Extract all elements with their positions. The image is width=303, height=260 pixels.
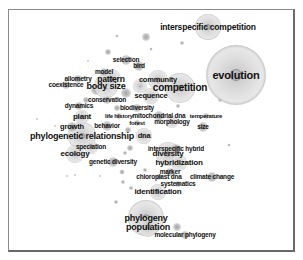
minor-bubble (176, 104, 180, 108)
keyword-label: ecology (61, 150, 90, 158)
minor-bubble (120, 170, 125, 175)
minor-bubble (54, 125, 56, 127)
keyword-label: evolution (212, 70, 259, 81)
minor-bubble (127, 145, 133, 151)
keyword-label: diversity (152, 150, 183, 158)
keyword-label: temperature (190, 113, 222, 119)
minor-bubble (121, 180, 125, 184)
minor-bubble (143, 168, 147, 172)
keyword-label: bird (133, 63, 144, 70)
minor-bubble (123, 151, 127, 155)
keyword-label: interspecific competition (160, 23, 256, 32)
keyword-label: morphology (154, 119, 190, 126)
keyword-label: conservation (88, 97, 126, 104)
minor-bubble (74, 174, 76, 176)
minor-bubble (105, 49, 111, 55)
keyword-label: biodiversity (120, 105, 154, 112)
minor-bubble (36, 118, 38, 120)
minor-bubble (116, 35, 119, 38)
minor-bubble (87, 60, 89, 62)
minor-bubble (150, 48, 153, 51)
keyword-label: identification (135, 188, 182, 196)
minor-bubble (129, 186, 133, 190)
keyword-label: sequence (135, 92, 168, 100)
keyword-label: genetic diversity (89, 159, 137, 166)
minor-bubble (180, 41, 184, 45)
keyword-label: molecular phylogeny (154, 232, 215, 239)
keyword-label: dynamics (65, 103, 93, 110)
keyword-label: behavior (94, 123, 120, 130)
keyword-label: plant (73, 113, 91, 121)
keyword-label: forest (129, 120, 144, 126)
minor-bubble (228, 144, 231, 147)
keyword-label: coexistence (48, 82, 83, 89)
keyword-label: hybridization (155, 159, 202, 167)
keyword-label: life history (105, 113, 133, 119)
keyword-label: dna (138, 132, 151, 140)
minor-bubble (114, 200, 118, 204)
keyword-label: community (139, 76, 177, 84)
minor-bubble (99, 175, 101, 177)
minor-bubble (66, 175, 68, 177)
keyword-label: phylogenetic relationship (30, 132, 134, 141)
keyword-label: size (197, 124, 209, 131)
keyword-label: climate change (190, 174, 234, 181)
minor-bubble (142, 33, 150, 41)
keyword-label: body size (86, 82, 125, 91)
